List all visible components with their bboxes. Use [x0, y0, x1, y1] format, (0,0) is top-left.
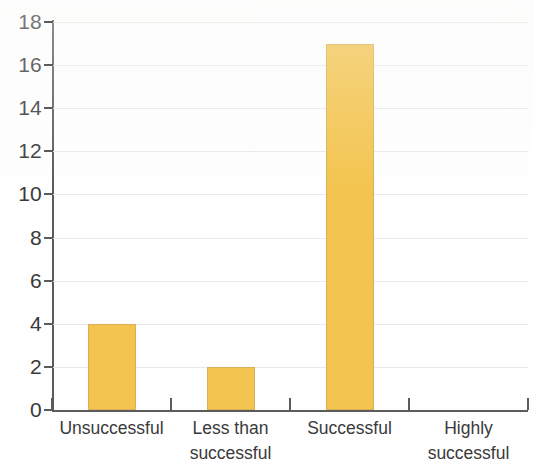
y-axis-tick-label: 0	[4, 399, 42, 420]
x-axis-category-label-line: Highly	[444, 418, 493, 438]
y-axis-tick-mark	[44, 323, 53, 325]
x-axis-category-label-line: successful	[409, 441, 528, 466]
y-axis-tick-label: 4	[4, 313, 42, 334]
x-axis-tick-mark	[527, 398, 529, 410]
x-axis-tick-mark	[289, 398, 291, 410]
x-axis-category-label: Successful	[290, 416, 409, 441]
gridline	[52, 194, 528, 195]
y-axis-tick-label: 14	[4, 97, 42, 118]
y-axis-tick-label: 16	[4, 54, 42, 75]
x-axis-category-label-line: successful	[171, 441, 290, 466]
y-axis-tick-mark	[44, 280, 53, 282]
x-axis-tick-mark	[408, 398, 410, 410]
y-axis-tick-label: 12	[4, 140, 42, 161]
y-axis-tick-label: 2	[4, 356, 42, 377]
x-axis-category-label-line: Less than	[193, 418, 269, 438]
plot-area	[52, 22, 528, 410]
y-axis-tick-label-group: 024681012141618	[0, 0, 42, 475]
x-axis-category-label: Less thansuccessful	[171, 416, 290, 466]
x-axis-category-label-line: Successful	[307, 418, 392, 438]
gridline	[52, 281, 528, 282]
x-axis-line	[52, 410, 528, 412]
x-axis-label-group: UnsuccessfulLess thansuccessfulSuccessfu…	[52, 416, 528, 475]
y-axis-tick-mark	[44, 193, 53, 195]
y-axis-tick-label: 6	[4, 270, 42, 291]
gridline	[52, 108, 528, 109]
bar-chart-figure: 024681012141618 UnsuccessfulLess thansuc…	[0, 0, 534, 475]
bar	[88, 324, 136, 410]
bar	[326, 44, 374, 410]
y-axis-tick-mark	[44, 64, 53, 66]
gridline	[52, 151, 528, 152]
x-axis-category-label-line: Unsuccessful	[59, 418, 163, 438]
x-axis-tick-mark	[170, 398, 172, 410]
y-axis-tick-mark	[44, 150, 53, 152]
x-axis-tick-mark	[51, 398, 53, 410]
x-axis-category-label: Unsuccessful	[52, 416, 171, 441]
y-axis-tick-label: 18	[4, 11, 42, 32]
y-axis-tick-mark	[44, 237, 53, 239]
y-axis-tick-mark	[44, 366, 53, 368]
y-axis-tick-mark	[44, 107, 53, 109]
gridline	[52, 22, 528, 23]
bar	[207, 367, 255, 410]
gridline	[52, 65, 528, 66]
x-axis-category-label: Highlysuccessful	[409, 416, 528, 466]
y-axis-tick-label: 10	[4, 183, 42, 204]
y-axis-tick-label: 8	[4, 227, 42, 248]
y-axis-tick-mark	[44, 21, 53, 23]
gridline	[52, 238, 528, 239]
